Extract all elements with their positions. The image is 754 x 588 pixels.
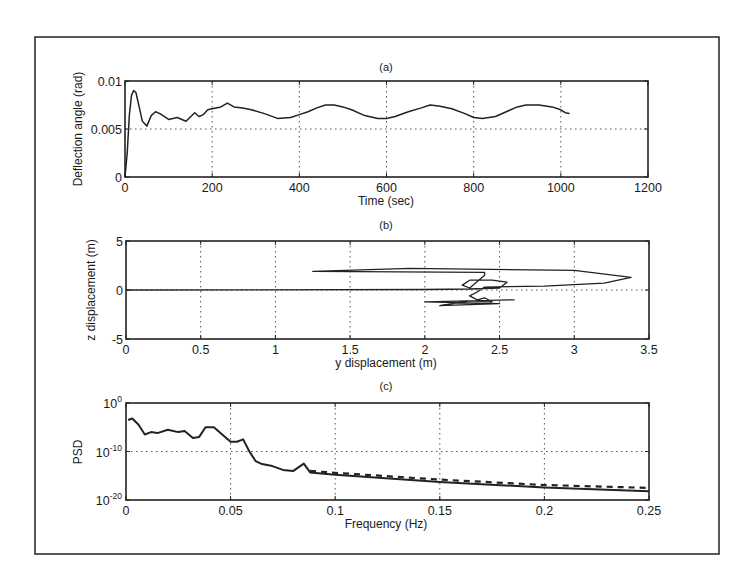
psd-solid-curve: [128, 419, 649, 492]
x-tick-label: 800: [463, 181, 484, 195]
panel-a-ylabel: Deflection angle (rad): [71, 72, 85, 187]
panel-c-title: (c): [380, 380, 393, 392]
x-tick-label: 1.5: [341, 343, 358, 357]
deflection-curve: [125, 91, 570, 177]
x-tick-label: 200: [202, 181, 223, 195]
x-tick-label: 1000: [547, 181, 575, 195]
x-tick-label: 0.15: [428, 504, 452, 518]
y-tick-label: 0: [115, 171, 122, 185]
y-tick-label: -5: [112, 333, 123, 347]
y-tick-label: 100: [103, 394, 122, 411]
x-tick-label: 0.25: [637, 504, 661, 518]
x-tick-label: 1200: [634, 181, 662, 195]
y-tick-label: 5: [116, 235, 123, 249]
y-tick-label: 0.005: [91, 123, 122, 137]
panel-b: (b) 00.511.522.533.5-505 y displacement …: [84, 219, 658, 370]
panel-a: (a) 02004006008001000120000.0050.01 Time…: [71, 61, 662, 208]
panel-c: (c) 00.050.10.150.20.2510-2010-10100 Fre…: [71, 380, 661, 531]
x-tick-label: 0.05: [218, 504, 242, 518]
x-tick-label: 2: [421, 343, 428, 357]
panel-c-xlabel: Frequency (Hz): [345, 517, 428, 531]
panel-c-ylabel: PSD: [71, 439, 85, 464]
y-tick-label: 0.01: [98, 75, 122, 89]
panel-b-xlabel: y displacement (m): [335, 356, 436, 370]
x-tick-label: 0.1: [327, 504, 344, 518]
panel-b-ylabel: z displacement (m): [84, 239, 98, 340]
psd-dashed-curve: [310, 471, 649, 488]
x-tick-label: 0.5: [192, 343, 209, 357]
x-tick-label: 1: [272, 343, 279, 357]
panel-b-title: (b): [379, 219, 392, 231]
x-tick-label: 0.2: [536, 504, 553, 518]
x-tick-label: 0: [123, 504, 130, 518]
y-tick-label: 10-20: [96, 491, 122, 508]
x-tick-label: 3: [571, 343, 578, 357]
figure: (a) 02004006008001000120000.0050.01 Time…: [0, 0, 754, 588]
x-tick-label: 600: [376, 181, 397, 195]
x-tick-label: 0: [122, 181, 129, 195]
x-tick-label: 400: [289, 181, 310, 195]
y-tick-label: 0: [116, 284, 123, 298]
y-tick-label: 10-10: [96, 443, 122, 460]
x-tick-label: 2.5: [491, 343, 508, 357]
trajectory-curve: [126, 268, 631, 305]
x-tick-label: 3.5: [640, 343, 657, 357]
panel-a-xlabel: Time (sec): [358, 194, 414, 208]
panel-a-title: (a): [379, 61, 392, 73]
x-tick-label: 0: [123, 343, 130, 357]
